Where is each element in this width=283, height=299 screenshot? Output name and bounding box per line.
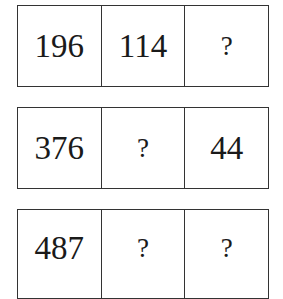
number-row-1: 196 114 ? — [17, 5, 269, 87]
cell: 376 — [18, 108, 101, 188]
cell: 196 — [18, 6, 101, 86]
number-row-2: 376 ? 44 — [17, 107, 269, 189]
cell: 487 — [18, 210, 101, 298]
unknown-cell: ? — [101, 210, 185, 298]
cell: 44 — [184, 108, 268, 188]
number-row-3: 487 ? ? — [17, 209, 269, 299]
unknown-cell: ? — [184, 210, 268, 298]
unknown-cell: ? — [101, 108, 185, 188]
cell: 114 — [101, 6, 185, 86]
unknown-cell: ? — [184, 6, 268, 86]
